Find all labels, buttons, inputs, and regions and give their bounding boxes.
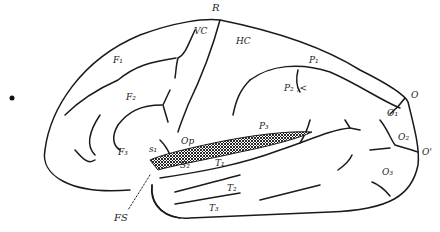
label-O2: O₂ xyxy=(398,133,409,142)
label-P1: P₁ xyxy=(309,56,319,65)
label-F2: F₂ xyxy=(126,93,136,102)
superior-frontal-sulcus xyxy=(65,58,176,115)
label-F1: F₁ xyxy=(113,56,123,65)
label-O3: O₃ xyxy=(382,168,393,177)
label-FS: FS xyxy=(114,213,128,223)
label-F3: F₃ xyxy=(118,148,128,157)
label-T3: T₃ xyxy=(209,204,219,213)
label-S2: S₂ xyxy=(180,161,190,170)
label-T1: T₁ xyxy=(215,159,225,168)
intraparietal-sulcus xyxy=(250,66,400,108)
label-O-prime: O' xyxy=(422,148,432,157)
label-O1: O₁ xyxy=(387,109,398,118)
central-sulcus xyxy=(178,20,220,132)
label-Op: Op xyxy=(181,137,194,146)
brain-diagram xyxy=(0,0,440,232)
label-R: R xyxy=(212,3,220,13)
precentral-sulcus xyxy=(175,30,195,78)
fissure-sylvii-pointer xyxy=(128,175,150,210)
label-T2: T₂ xyxy=(227,184,237,193)
label-HC: HC xyxy=(236,37,251,46)
label-P3: P₃ xyxy=(259,122,269,131)
label-P2: P₂ ,< xyxy=(284,84,307,93)
label-s1: s₁ xyxy=(149,145,157,154)
dot-marker xyxy=(10,96,15,101)
label-VC: VC xyxy=(194,27,207,36)
label-O: O xyxy=(411,91,418,100)
